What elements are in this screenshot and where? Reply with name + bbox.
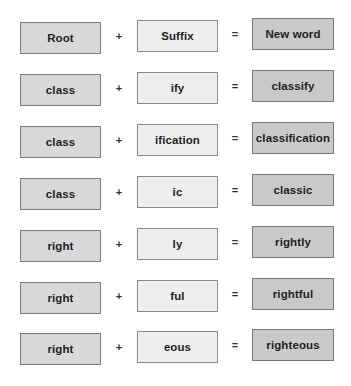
root-box: class bbox=[20, 178, 101, 210]
suffix-box: ful bbox=[137, 280, 218, 312]
plus-sign: + bbox=[112, 238, 126, 250]
plus-sign: + bbox=[112, 341, 126, 353]
root-box: right bbox=[20, 230, 101, 262]
result-box: classify bbox=[252, 70, 334, 102]
equals-sign: = bbox=[228, 80, 242, 92]
equation-row: right + eous = righteous bbox=[0, 329, 351, 369]
plus-sign: + bbox=[112, 290, 126, 302]
root-box: class bbox=[20, 126, 101, 158]
equals-sign: = bbox=[228, 288, 242, 300]
word-formation-diagram: Root + Suffix = New word class + ify = c… bbox=[0, 0, 351, 386]
equals-sign: = bbox=[228, 132, 242, 144]
plus-sign: + bbox=[112, 30, 126, 42]
equals-sign: = bbox=[228, 236, 242, 248]
plus-sign: + bbox=[112, 134, 126, 146]
equals-sign: = bbox=[228, 184, 242, 196]
result-box: classification bbox=[252, 122, 334, 154]
header-row: Root + Suffix = New word bbox=[0, 18, 351, 58]
suffix-box: eous bbox=[137, 331, 218, 363]
plus-sign: + bbox=[112, 82, 126, 94]
root-box: right bbox=[20, 282, 101, 314]
equation-row: class + ify = classify bbox=[0, 70, 351, 110]
suffix-box: ly bbox=[137, 228, 218, 260]
equation-row: right + ly = rightly bbox=[0, 226, 351, 266]
result-box: rightful bbox=[252, 278, 334, 310]
root-box: right bbox=[20, 333, 101, 365]
equation-row: right + ful = rightful bbox=[0, 278, 351, 318]
equals-sign: = bbox=[228, 28, 242, 40]
plus-sign: + bbox=[112, 186, 126, 198]
result-box: rightly bbox=[252, 226, 334, 258]
root-header-box: Root bbox=[20, 22, 101, 54]
suffix-box: ification bbox=[137, 124, 218, 156]
equation-row: class + ification = classification bbox=[0, 122, 351, 162]
suffix-box: ify bbox=[137, 72, 218, 104]
suffix-box: ic bbox=[137, 176, 218, 208]
result-box: classic bbox=[252, 174, 334, 206]
suffix-header-box: Suffix bbox=[137, 20, 218, 52]
equation-row: class + ic = classic bbox=[0, 174, 351, 214]
equals-sign: = bbox=[228, 339, 242, 351]
result-box: righteous bbox=[252, 329, 334, 361]
root-box: class bbox=[20, 74, 101, 106]
result-header-box: New word bbox=[252, 18, 334, 50]
